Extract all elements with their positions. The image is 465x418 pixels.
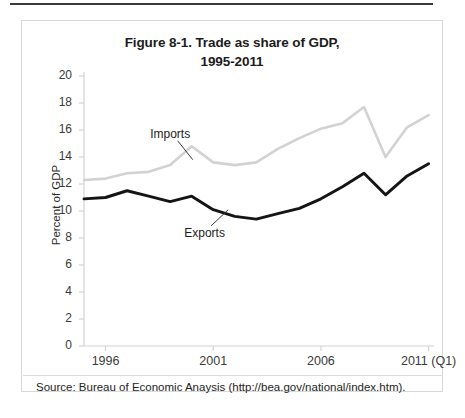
source-separator [23,375,443,376]
figure-container: Figure 8-1. Trade as share of GDP, 1995-… [21,20,443,392]
y-tick-label: 14 [46,149,72,163]
y-tick-label: 2 [46,311,72,325]
series-label-exports: Exports [184,226,225,240]
page-top-rule [10,3,433,5]
chart-svg [22,21,442,376]
y-tick-label: 20 [46,68,72,82]
figure-page: Figure 8-1. Trade as share of GDP, 1995-… [0,0,465,418]
series-layer [84,107,429,219]
x-tick-label: 2011 (Q1) [401,354,456,368]
y-tick-label: 10 [46,203,72,217]
y-tick-label: 6 [46,257,72,271]
source-note: Source: Bureau of Economic Anaysis (http… [36,381,405,393]
plot-area: Percent of GDP 02468101214161820 1996200… [22,21,442,376]
y-tick-label: 8 [46,230,72,244]
series-line-imports [84,107,429,180]
y-tick-label: 4 [46,284,72,298]
series-label-imports: Imports [150,127,190,141]
x-tick-label: 1996 [92,354,120,368]
x-tick-label: 2001 [199,354,227,368]
y-tick-label: 18 [46,95,72,109]
y-tick-label: 12 [46,176,72,190]
y-tick-label: 16 [46,122,72,136]
x-tick-label: 2006 [307,354,335,368]
axis-layer [79,72,434,351]
y-tick-label: 0 [46,338,72,352]
